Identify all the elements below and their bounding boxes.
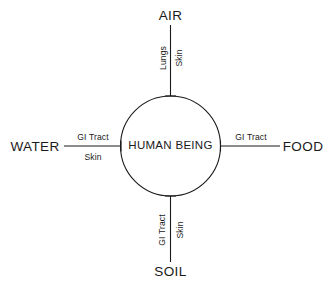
edge-label-water-skin: Skin (84, 153, 101, 162)
edge-label-water-gi-tract: GI Tract (77, 133, 108, 142)
node-label-food: FOOD (283, 140, 324, 154)
edge-label-air-skin: Skin (175, 49, 184, 66)
node-label-water: WATER (10, 140, 59, 154)
node-label-air: AIR (159, 9, 183, 23)
edge-label-soil-gi-tract: GI Tract (158, 214, 167, 245)
node-label-soil: SOIL (154, 265, 186, 279)
edge-label-soil-skin: Skin (176, 221, 185, 238)
edge-label-food-gi-tract: GI Tract (235, 133, 266, 142)
diagram-canvas: AIR WATER FOOD SOIL HUMAN BEING Lungs Sk… (0, 0, 333, 290)
center-label-human-being: HUMAN BEING (128, 140, 212, 152)
edge-label-air-lungs: Lungs (159, 46, 168, 70)
